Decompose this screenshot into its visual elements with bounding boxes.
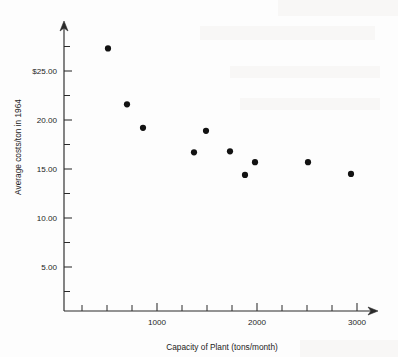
x-tick-label: 2000	[248, 318, 267, 327]
y-tick-label: $25.00	[32, 67, 57, 76]
axes-group	[60, 21, 378, 315]
y-tick-labels: 5.0010.0015.0020.00$25.00	[32, 67, 57, 272]
data-point	[124, 101, 130, 107]
y-tick-label: 20.00	[37, 116, 58, 125]
data-point	[348, 171, 354, 177]
data-point	[227, 148, 233, 154]
data-point	[140, 125, 146, 131]
x-tick-label: 3000	[348, 318, 367, 327]
data-point	[191, 149, 197, 155]
data-points-group	[105, 45, 354, 178]
y-tick-label: 10.00	[37, 214, 58, 223]
data-point	[203, 128, 209, 134]
x-axis-title: Capacity of Plant (tons/month)	[166, 342, 278, 352]
ticks-group	[64, 47, 357, 312]
scatter-chart-figure: 5.0010.0015.0020.00$25.00 100020003000 C…	[0, 0, 398, 357]
x-tick-labels: 100020003000	[148, 318, 367, 327]
data-point	[305, 159, 311, 165]
data-point	[252, 159, 258, 165]
y-tick-label: 5.00	[41, 263, 57, 272]
plot-area: 5.0010.0015.0020.00$25.00 100020003000 C…	[0, 0, 398, 357]
x-tick-label: 1000	[148, 318, 167, 327]
data-point	[105, 45, 111, 51]
y-tick-label: 15.00	[37, 165, 58, 174]
data-point	[242, 172, 248, 178]
y-axis-title: Average costs/ton in 1964	[13, 99, 23, 195]
